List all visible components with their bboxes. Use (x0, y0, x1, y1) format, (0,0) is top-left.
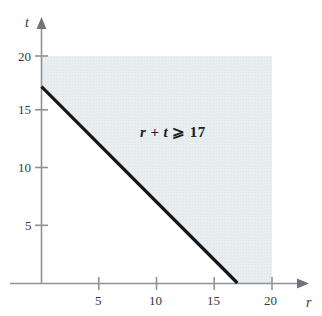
region-label-relation: ⩾ (172, 124, 185, 140)
region-label-var-x: r (140, 124, 146, 140)
x-tick-label-5: 5 (95, 294, 102, 307)
y-tick-label-5: 5 (25, 219, 32, 232)
y-tick-label-20: 20 (18, 50, 31, 63)
y-tick-label-15: 15 (18, 103, 31, 116)
region-inequality-label: r + t ⩾ 17 (140, 125, 206, 140)
region-label-var-y: t (164, 124, 169, 140)
x-tick-label-10: 10 (149, 294, 162, 307)
inequality-graph-figure: 20 15 10 5 5 10 15 20 t r r + t ⩾ 17 (0, 0, 322, 316)
region-label-constant: 17 (190, 124, 206, 140)
x-tick-label-20: 20 (264, 294, 277, 307)
y-axis-label: t (25, 16, 29, 30)
region-label-plus: + (150, 124, 159, 140)
shaded-solution-region (41, 56, 272, 283)
x-tick-label-15: 15 (207, 294, 220, 307)
x-axis-label: r (306, 296, 311, 310)
graph-svg (0, 0, 322, 316)
y-tick-label-10: 10 (18, 161, 31, 174)
